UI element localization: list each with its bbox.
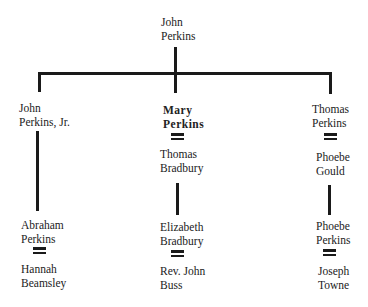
- grandchild-elizabeth-bradbury: Elizabeth Bradbury: [160, 220, 203, 248]
- name-line-1: Elizabeth: [160, 220, 203, 234]
- name-line-1: Mary: [163, 103, 204, 117]
- name-line-2: Perkins: [21, 232, 64, 246]
- child-john-perkins-jr: John Perkins, Jr.: [19, 101, 70, 129]
- name-line-2: Bradbury: [160, 234, 203, 248]
- name-line-1: John: [19, 101, 70, 115]
- name-line-1: John: [161, 15, 196, 29]
- marriage-symbol: [171, 133, 184, 140]
- name-line-1: Thomas: [160, 147, 203, 161]
- name-line-1: Abraham: [21, 218, 64, 232]
- name-line-1: Hannah: [21, 262, 66, 276]
- grandchild-abraham-perkins: Abraham Perkins: [21, 218, 64, 246]
- center-descent-line: [176, 183, 179, 215]
- name-line-2: Perkins: [161, 29, 196, 43]
- name-line-1: Phoebe: [316, 219, 351, 233]
- name-line-2: Beamsley: [21, 276, 66, 290]
- marriage-symbol: [324, 133, 337, 140]
- spouse-hannah-beamsley: Hannah Beamsley: [21, 262, 66, 290]
- spouse-thomas-bradbury: Thomas Bradbury: [160, 147, 203, 175]
- name-line-2: Buss: [160, 278, 205, 292]
- grandchild-phoebe-perkins: Phoebe Perkins: [316, 219, 351, 247]
- marriage-symbol: [171, 250, 184, 257]
- marriage-symbol: [33, 247, 46, 254]
- root-john-perkins: John Perkins: [161, 15, 196, 43]
- spouse-joseph-towne: Joseph Towne: [318, 264, 349, 292]
- name-line-1: Phoebe: [316, 150, 350, 164]
- name-line-2: Towne: [318, 278, 349, 292]
- spouse-phoebe-gould: Phoebe Gould: [316, 150, 350, 178]
- name-line-1: Thomas: [312, 102, 349, 116]
- name-line-2: Perkins: [316, 233, 351, 247]
- left-descent-line: [36, 131, 39, 211]
- child-thomas-perkins: Thomas Perkins: [312, 102, 349, 130]
- right-descent-line: [328, 185, 331, 215]
- name-line-2: Perkins, Jr.: [19, 115, 70, 129]
- left-drop-line: [38, 72, 41, 92]
- marriage-symbol: [323, 249, 336, 256]
- spouse-rev-john-buss: Rev. John Buss: [160, 264, 205, 292]
- sibling-bar-line: [38, 72, 332, 75]
- name-line-2: Perkins: [312, 116, 349, 130]
- name-line-2: Perkins: [163, 117, 204, 131]
- name-line-1: Joseph: [318, 264, 349, 278]
- child-mary-perkins: Mary Perkins: [163, 103, 204, 131]
- name-line-2: Bradbury: [160, 161, 203, 175]
- right-drop-line: [329, 72, 332, 94]
- name-line-2: Gould: [316, 164, 350, 178]
- name-line-1: Rev. John: [160, 264, 205, 278]
- root-stem-line: [174, 47, 177, 93]
